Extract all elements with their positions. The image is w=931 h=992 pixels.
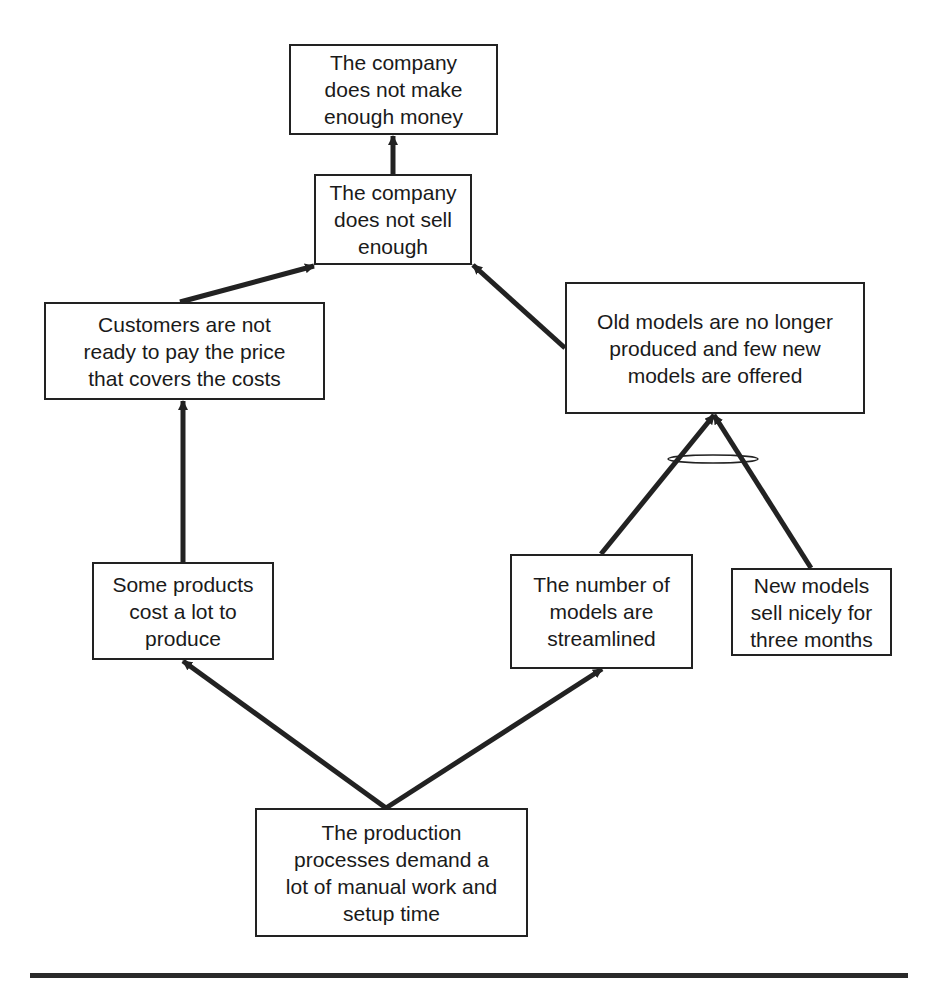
node-new-models-sell: New models sell nicely for three months — [731, 568, 892, 656]
arrow-n8-to-n6 — [386, 669, 602, 808]
node-not-sell-enough: The company does not sell enough — [314, 174, 472, 265]
arrow-n8-to-n5 — [183, 661, 386, 808]
causal-arrows — [180, 136, 811, 808]
node-old-models: Old models are no longer produced and fe… — [565, 282, 865, 414]
arrow-n3-to-n2 — [180, 266, 314, 302]
node-customers-not-ready: Customers are not ready to pay the price… — [44, 302, 325, 400]
bottom-rule — [30, 973, 908, 978]
arrow-n6-to-n4 — [601, 415, 714, 554]
node-models-streamlined: The number of models are streamlined — [510, 554, 693, 669]
node-not-enough-money: The company does not make enough money — [289, 44, 498, 135]
arrow-n4-to-n2 — [473, 265, 565, 348]
arrow-n7-to-n4 — [714, 415, 811, 568]
node-products-cost: Some products cost a lot to produce — [92, 562, 274, 660]
node-production-processes: The production processes demand a lot of… — [255, 808, 528, 937]
